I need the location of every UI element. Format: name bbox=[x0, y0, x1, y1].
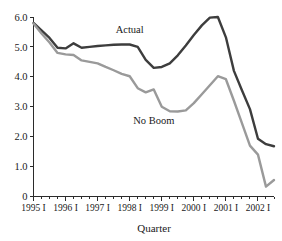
x-tick-label: 1998 I bbox=[117, 203, 142, 213]
y-tick-label: 0 bbox=[22, 191, 27, 202]
y-tick-marks bbox=[30, 17, 34, 197]
chart-figure: 01.02.03.04.05.06.0 1995 I1996 I1997 I19… bbox=[0, 0, 282, 241]
x-tick-label: 2002 I bbox=[246, 203, 271, 213]
x-tick-label: 1996 I bbox=[53, 203, 78, 213]
y-axis: 01.02.03.04.05.06.0 bbox=[14, 12, 33, 203]
series-line-no-boom bbox=[34, 24, 275, 187]
x-tick-label: 2000 I bbox=[182, 203, 207, 213]
series-line-actual bbox=[34, 17, 275, 146]
x-tick-marks bbox=[34, 197, 275, 202]
line-chart: 01.02.03.04.05.06.0 1995 I1996 I1997 I19… bbox=[0, 0, 282, 241]
x-tick-label: 1999 I bbox=[149, 203, 174, 213]
series-label-actual: Actual bbox=[116, 24, 144, 35]
x-axis-title: Quarter bbox=[137, 222, 171, 234]
x-tick-label: 1995 I bbox=[21, 203, 46, 213]
series-label-no-boom: No Boom bbox=[133, 115, 174, 126]
data-series bbox=[34, 17, 275, 187]
y-tick-label: 3.0 bbox=[14, 101, 27, 112]
y-tick-label: 1.0 bbox=[14, 161, 27, 172]
x-tick-label: 2001 I bbox=[214, 203, 239, 213]
y-tick-label: 2.0 bbox=[14, 131, 27, 142]
y-tick-label: 5.0 bbox=[14, 42, 27, 53]
y-tick-label: 6.0 bbox=[14, 12, 27, 23]
y-tick-labels: 01.02.03.04.05.06.0 bbox=[14, 12, 27, 203]
x-axis: 1995 I1996 I1997 I1998 I1999 I2000 I2001… bbox=[21, 197, 274, 214]
x-tick-label: 1997 I bbox=[85, 203, 110, 213]
x-tick-labels: 1995 I1996 I1997 I1998 I1999 I2000 I2001… bbox=[21, 203, 270, 213]
y-tick-label: 4.0 bbox=[14, 71, 27, 82]
